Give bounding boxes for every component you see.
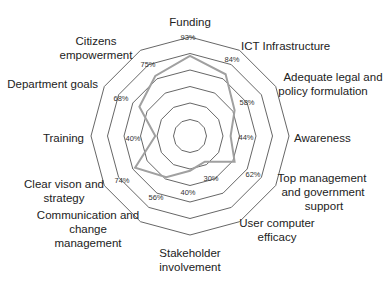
radar-grid — [91, 37, 289, 235]
pct-cit: 75% — [140, 60, 155, 69]
axis-label-comm-2: change — [69, 223, 107, 235]
grid-ring — [91, 37, 289, 235]
axis-label-user-2: efficacy — [258, 231, 297, 243]
pct-funding: 93% — [180, 33, 195, 42]
axis-label-ict: ICT Infrastructure — [241, 40, 330, 52]
radar-chart: Funding ICT Infrastructure Adequate lega… — [0, 0, 386, 289]
pct-awareness: 44% — [238, 133, 253, 142]
pct-legal: 58% — [239, 98, 254, 107]
axis-label-top-3: support — [305, 200, 344, 212]
grid-ring — [157, 103, 223, 169]
pct-dept: 68% — [113, 94, 128, 103]
axis-label-funding: Funding — [169, 16, 211, 28]
axis-label-legal-1: Adequate legal and — [283, 71, 382, 83]
axis-label-legal-2: policy formulation — [278, 85, 367, 97]
pct-ict: 84% — [224, 55, 239, 64]
axis-label-clear-2: strategy — [44, 192, 85, 204]
axis-label-clear-1: Clear vison and — [24, 178, 104, 190]
axis-label-awareness: Awareness — [294, 132, 351, 144]
pct-training: 40% — [125, 134, 140, 143]
axis-label-top-2: and government — [281, 186, 365, 198]
axis-label-cit-1: Citizens — [76, 35, 117, 47]
pct-clear: 74% — [114, 176, 129, 185]
pct-stake: 40% — [180, 188, 195, 197]
pct-user: 30% — [203, 174, 218, 183]
axis-label-comm-1: Communication and — [37, 209, 139, 221]
axis-label-top-1: Top management — [278, 172, 368, 184]
grid-ring — [124, 70, 256, 202]
pct-comm: 56% — [148, 193, 163, 202]
axis-label-training: Training — [43, 132, 84, 144]
grid-ring — [174, 120, 207, 153]
data-series-polygon — [135, 56, 235, 177]
pct-top: 62% — [245, 170, 260, 179]
axis-label-dept: Department goals — [7, 78, 98, 90]
axis-label-user-1: User computer — [239, 217, 315, 229]
axis-label-stake-2: involvement — [159, 261, 221, 273]
axis-label-comm-3: management — [54, 237, 122, 249]
axis-label-cit-2: empowerment — [60, 49, 134, 61]
axis-label-stake-1: Stakeholder — [159, 247, 221, 259]
